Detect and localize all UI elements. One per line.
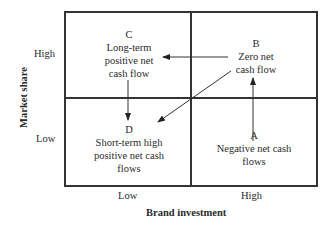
quadrant-d-letter: D [84,123,174,136]
quadrant-a-line-2: flows [206,155,302,168]
x-tick-high: High [241,190,262,201]
quadrant-b-line-1: Zero net [226,50,286,63]
quadrant-a-line-1: Negative net cash [206,142,302,155]
quadrant-d-line-3: flows [84,162,174,175]
y-axis-title: Market share [18,63,29,133]
quadrant-c-line-3: cash flow [86,67,172,80]
quadrant-b: B Zero net cash flow [226,37,286,76]
quadrant-d: D Short-term high positive net cash flow… [84,123,174,175]
y-tick-high: High [34,48,55,59]
quadrant-c: C Long-term positive net cash flow [86,28,172,80]
quadrant-c-line-2: positive net [86,54,172,67]
y-tick-low: Low [36,133,55,144]
quadrant-a: A Negative net cash flows [206,129,302,168]
quadrant-d-line-1: Short-term high [84,136,174,149]
quadrant-d-line-2: positive net cash [84,149,174,162]
quadrant-c-line-1: Long-term [86,41,172,54]
x-axis-title: Brand investment [146,207,226,218]
quadrant-a-letter: A [206,129,302,142]
x-tick-low: Low [118,190,137,201]
quadrant-c-letter: C [86,28,172,41]
quadrant-b-letter: B [226,37,286,50]
quadrant-b-line-2: cash flow [226,63,286,76]
